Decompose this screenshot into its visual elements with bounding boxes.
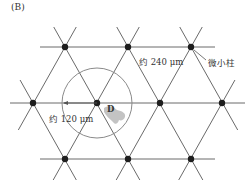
micropillar-node (188, 44, 194, 50)
micropillar-node (62, 156, 68, 162)
diagonal-line (20, 80, 76, 180)
micropillar-node (219, 100, 225, 106)
spacing-small-label: 约 120 μm (49, 114, 93, 124)
radius-arrow (63, 101, 97, 105)
micropillar-lattice-diagram: D 约 240 μm 约 120 μm 微小柱 (0, 0, 248, 193)
micropillar-node (62, 44, 68, 50)
pillar-label: 微小柱 (208, 58, 235, 68)
diagonal-line (179, 80, 235, 180)
droplet-label: D (107, 104, 115, 114)
spacing-large-label: 约 240 μm (139, 57, 183, 67)
micropillar-node (125, 44, 131, 50)
micropillar-node (188, 156, 194, 162)
diagonal-line (180, 27, 238, 130)
micropillar-node (125, 156, 131, 162)
micropillar-node (30, 100, 36, 106)
micropillar-node (157, 100, 163, 106)
